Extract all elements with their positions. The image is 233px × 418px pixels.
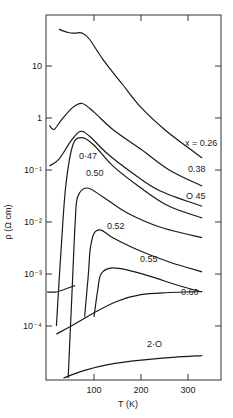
curve-0-50 <box>68 188 202 378</box>
curve-label: 0.60 <box>181 287 199 297</box>
y-tick-label: 10 <box>32 61 42 71</box>
curve-0-45 <box>49 131 202 206</box>
x-tick-label: 200 <box>133 385 148 395</box>
x-axis-label: T (K) <box>118 399 138 409</box>
curve-0-52 <box>85 230 203 317</box>
curve-0-60 <box>56 292 202 335</box>
curve-label: O 45 <box>186 191 206 201</box>
y-tick-label: 10⁻³ <box>24 269 42 279</box>
resistivity-chart: 10020030010110⁻¹10⁻²10⁻³10⁻⁴ x = 0.260.3… <box>0 0 233 418</box>
plot-axes: 10020030010110⁻¹10⁻²10⁻³10⁻⁴ <box>23 15 221 395</box>
data-curves <box>47 29 202 378</box>
curve-0-38 <box>49 103 202 186</box>
curve-2-0 <box>64 356 203 378</box>
curve-label: 0.38 <box>188 164 206 174</box>
curve-label: 2·O <box>147 339 162 349</box>
y-tick-label: 1 <box>37 113 42 123</box>
y-axis-label: ρ (Ω cm) <box>3 205 13 240</box>
curve-low-T-segment <box>47 286 75 293</box>
curve-label: 0·47 <box>79 151 97 161</box>
curve-label: 0.55 <box>140 254 158 264</box>
y-tick-label: 10⁻⁴ <box>23 321 42 331</box>
curve-label: x = 0.26 <box>185 138 217 148</box>
curve-labels: x = 0.260.38O 450·470.500.520.550.602·O <box>79 138 217 349</box>
x-tick-label: 300 <box>180 385 195 395</box>
curve-label: 0.50 <box>86 168 104 178</box>
y-tick-label: 10⁻¹ <box>24 165 42 175</box>
y-tick-label: 10⁻² <box>24 217 42 227</box>
x-tick-label: 100 <box>86 385 101 395</box>
curve-x-0-26 <box>59 29 202 158</box>
curve-label: 0.52 <box>107 221 125 231</box>
